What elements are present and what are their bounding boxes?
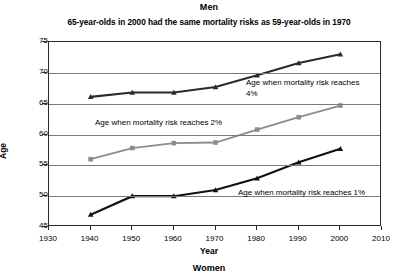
- gridline-y-70: [49, 73, 380, 74]
- next-panel-title: Women: [0, 263, 418, 273]
- gridline-y-60: [49, 135, 380, 136]
- chart-container: Men 65-year-olds in 2000 had the same mo…: [0, 0, 418, 279]
- x-tick-mark-2010: [381, 226, 382, 230]
- x-tick-mark-2000: [339, 226, 340, 230]
- data-point-marker: [130, 146, 135, 151]
- y-axis: Age 45505560657075: [0, 41, 48, 227]
- y-tick-mark-55: [42, 164, 47, 165]
- gridline-y-65: [49, 104, 380, 105]
- x-tick-mark-1940: [90, 226, 91, 230]
- gridline-y-55: [49, 165, 380, 166]
- y-tick-mark-50: [42, 195, 47, 196]
- y-tick-mark-70: [42, 72, 47, 73]
- x-tick-label-1990: 1990: [278, 234, 318, 243]
- x-tick-mark-1960: [173, 226, 174, 230]
- x-tick-label-1960: 1960: [153, 234, 193, 243]
- x-tick-mark-1930: [48, 226, 49, 230]
- x-tick-label-2000: 2000: [319, 234, 359, 243]
- annotation-4-percent: Age when mortality risk reaches 4%: [246, 78, 378, 99]
- series-line: [91, 106, 341, 160]
- x-tick-mark-1950: [131, 226, 132, 230]
- data-point-marker: [172, 141, 177, 146]
- chart-title: Men: [0, 2, 418, 12]
- y-tick-mark-60: [42, 134, 47, 135]
- x-tick-label-1950: 1950: [111, 234, 151, 243]
- annotation-2-percent: Age when mortality risk reaches 2%: [95, 118, 305, 129]
- x-tick-label-1930: 1930: [28, 234, 68, 243]
- annotation-1-percent: Age when mortality risk reaches 1%: [238, 188, 398, 199]
- x-tick-mark-1970: [215, 226, 216, 230]
- x-axis-title: Year: [0, 246, 418, 256]
- x-tick-mark-1990: [298, 226, 299, 230]
- series-3: [88, 146, 343, 217]
- x-tick-label-1970: 1970: [195, 234, 235, 243]
- x-tick-mark-1980: [256, 226, 257, 230]
- chart-subtitle: 65-year-olds in 2000 had the same mortal…: [0, 17, 418, 27]
- series-2: [88, 103, 342, 161]
- data-point-marker: [213, 140, 218, 145]
- y-tick-mark-65: [42, 103, 47, 104]
- data-point-marker: [88, 157, 93, 162]
- x-axis: Year 19301940195019601970198019902000201…: [0, 226, 418, 256]
- y-axis-title: Age: [0, 143, 8, 159]
- y-tick-mark-75: [42, 41, 47, 42]
- x-tick-label-1980: 1980: [236, 234, 276, 243]
- series-line: [91, 149, 341, 215]
- x-tick-label-1940: 1940: [70, 234, 110, 243]
- x-tick-label-2010: 2010: [361, 234, 401, 243]
